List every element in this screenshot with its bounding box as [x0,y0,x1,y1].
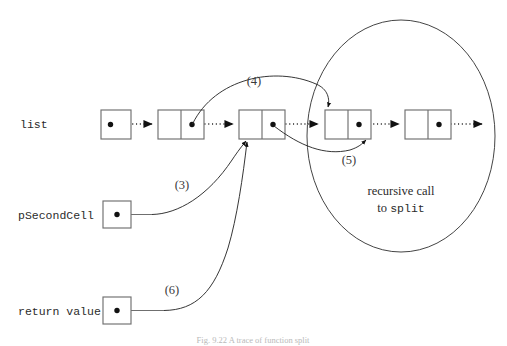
cell-2-pointer-dot [189,122,194,127]
figure-root: list pSecondCell return value (4) (5) (3… [0,0,507,346]
recursive-call-to-word: to [377,201,390,215]
list-cell-5 [405,110,451,139]
arrow-3-psecondcell-to-cell3 [152,141,246,215]
label-list: list [20,118,48,131]
recursive-call-text-line2: to split [377,201,424,215]
p-second-cell-box [103,201,131,228]
step-label-5: (5) [342,153,357,167]
list-cell-2 [158,110,204,139]
p-second-cell-pointer-dot [114,212,119,217]
return-value-pointer-dot [114,308,119,313]
recursive-call-split-code: split [390,202,425,215]
step-label-6: (6) [165,283,180,297]
label-return-value: return value [18,305,101,318]
head-cell-pointer-dot [108,122,113,127]
step-label-4: (4) [247,74,262,88]
list-cell-3 [239,110,285,139]
cell-4-pointer-dot [356,122,361,127]
list-cell-head [101,110,131,139]
label-p-second-cell: pSecondCell [18,209,94,222]
split-trace-diagram: list pSecondCell return value (4) (5) (3… [0,0,507,346]
cell-5-pointer-dot [436,122,441,127]
recursive-call-text-line1: recursive call [368,184,436,198]
step-label-3: (3) [175,178,190,192]
figure-caption: Fig. 9.22 A trace of function split [197,335,310,345]
list-cell-4 [325,110,371,139]
return-value-box [103,297,131,324]
